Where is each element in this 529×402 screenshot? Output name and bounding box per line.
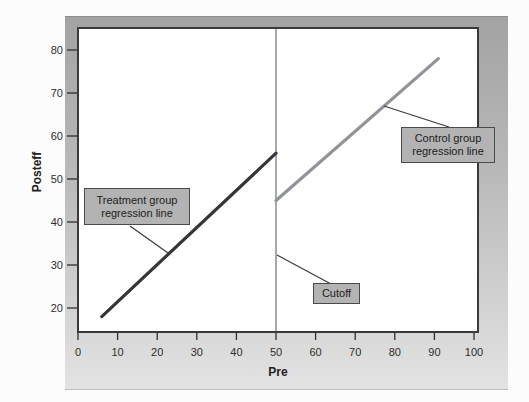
plot-area — [78, 28, 478, 332]
x-tick-label: 100 — [465, 346, 483, 358]
x-tick-label: 20 — [151, 346, 163, 358]
y-tick-label: 30 — [51, 259, 63, 271]
y-tick-label: 20 — [51, 302, 63, 314]
x-tick-label: 10 — [111, 346, 123, 358]
y-tick-label: 80 — [51, 44, 63, 56]
treatment-group-label-box: Treatment group regression line — [84, 188, 190, 225]
x-tick-label: 60 — [309, 346, 321, 358]
page-root: 010203040506070809010020304050607080 Tre… — [0, 0, 529, 402]
y-tick-label: 40 — [51, 216, 63, 228]
y-axis-title: Posteff — [30, 122, 44, 222]
control-group-label: Control group regression line — [402, 132, 494, 158]
y-tick-label: 50 — [51, 173, 63, 185]
control-group-label-box: Control group regression line — [401, 127, 495, 163]
chart-canvas: 010203040506070809010020304050607080 — [0, 0, 529, 402]
x-tick-label: 40 — [230, 346, 242, 358]
y-tick-label: 60 — [51, 130, 63, 142]
cutoff-label: Cutoff — [322, 287, 351, 300]
x-tick-label: 30 — [191, 346, 203, 358]
x-tick-label: 90 — [428, 346, 440, 358]
x-axis-title: Pre — [260, 365, 296, 379]
x-tick-label: 50 — [270, 346, 282, 358]
x-tick-label: 0 — [75, 346, 81, 358]
treatment-group-label: Treatment group regression line — [85, 194, 189, 220]
cutoff-label-box: Cutoff — [313, 283, 360, 304]
y-tick-label: 70 — [51, 87, 63, 99]
x-tick-label: 80 — [389, 346, 401, 358]
x-tick-label: 70 — [349, 346, 361, 358]
